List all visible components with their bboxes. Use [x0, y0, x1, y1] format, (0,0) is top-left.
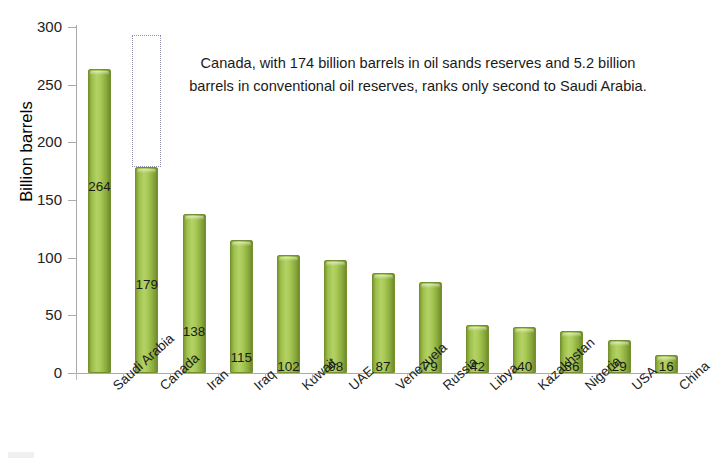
- page-artifact: [8, 452, 34, 458]
- bar[interactable]: 87: [372, 273, 395, 373]
- chart-annotation: Canada, with 174 billion barrels in oil …: [183, 52, 653, 97]
- y-axis-tick-label: 100: [10, 250, 62, 265]
- y-axis-tick-label: 250: [10, 77, 62, 92]
- bar-value-label: 102: [277, 360, 300, 374]
- y-axis-tick-label: 300: [10, 19, 62, 34]
- bar[interactable]: 102: [277, 255, 300, 373]
- y-axis-tick-label: 50: [10, 307, 62, 322]
- bar-value-label: 87: [375, 360, 390, 374]
- y-axis-tick-label: 0: [10, 365, 62, 380]
- y-axis-tick: [68, 142, 76, 143]
- y-axis-tick: [68, 200, 76, 201]
- y-axis-tick: [68, 373, 76, 374]
- bar[interactable]: 138: [183, 214, 206, 373]
- x-axis-tick: [76, 373, 77, 380]
- bar-value-label: 264: [88, 180, 111, 194]
- bar-value-label: 115: [231, 351, 253, 365]
- y-axis-tick: [68, 27, 76, 28]
- y-axis-tick-label: 200: [10, 134, 62, 149]
- bar[interactable]: 264: [88, 69, 111, 373]
- oil-sands-outline: [132, 35, 161, 166]
- bar-value-label: 138: [183, 325, 206, 339]
- y-axis-tick-label: 150: [10, 192, 62, 207]
- bar-value-label: 179: [136, 278, 159, 292]
- bar[interactable]: 16: [655, 355, 678, 373]
- bar[interactable]: 115: [230, 240, 253, 373]
- y-axis-tick: [68, 258, 76, 259]
- y-axis-tick: [68, 85, 76, 86]
- bar-value-label: 16: [659, 360, 674, 374]
- y-axis-tick: [68, 315, 76, 316]
